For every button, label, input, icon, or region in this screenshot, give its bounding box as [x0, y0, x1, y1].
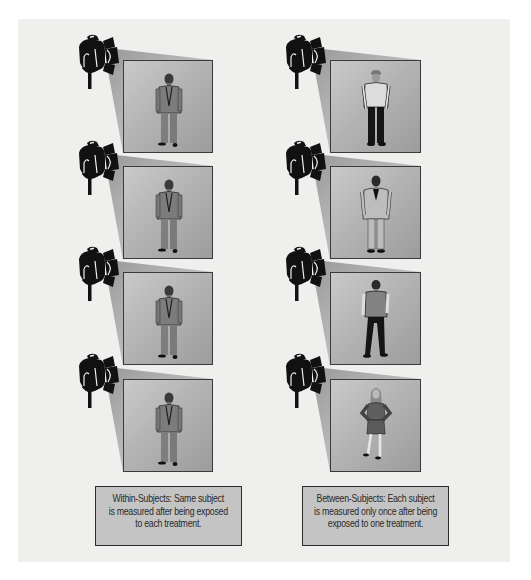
treatment-panel	[123, 272, 213, 365]
caption-line: Between-Subjects: Each subject	[314, 493, 437, 506]
spotlight-icon	[282, 352, 328, 408]
caption-line: to each treatment.	[109, 518, 228, 531]
caption-text: Within-Subjects: Same subject is measure…	[109, 493, 228, 531]
caption-line: Within-Subjects: Same subject	[109, 493, 228, 506]
spotlight-icon	[282, 245, 328, 301]
spotlight-icon	[282, 33, 328, 89]
man-in-suit-figure	[124, 61, 213, 153]
treatment-panel	[330, 379, 421, 472]
spotlight-icon	[75, 352, 121, 408]
man-in-cap-figure	[331, 61, 421, 153]
treatment-panel	[123, 60, 213, 153]
man-in-blazer-figure	[331, 167, 421, 259]
between-subjects-caption: Between-Subjects: Each subject is measur…	[302, 486, 449, 546]
treatment-panel	[330, 60, 421, 153]
spotlight-icon	[75, 139, 121, 195]
caption-line: exposed to one treatment.	[314, 518, 437, 531]
caption-text: Between-Subjects: Each subject is measur…	[314, 493, 437, 531]
man-in-suit-figure	[124, 167, 213, 259]
caption-line: is measured only once after being	[314, 506, 437, 519]
caption-line: is measured after being exposed	[109, 506, 228, 519]
man-in-vest-figure	[331, 273, 421, 365]
woman-figure	[331, 380, 421, 472]
spotlight-icon	[75, 33, 121, 89]
treatment-panel	[123, 379, 213, 472]
treatment-panel	[330, 272, 421, 365]
within-subjects-caption: Within-Subjects: Same subject is measure…	[95, 486, 242, 546]
spotlight-icon	[282, 139, 328, 195]
man-in-suit-figure	[124, 273, 213, 365]
treatment-panel	[123, 166, 213, 259]
spotlight-icon	[75, 245, 121, 301]
man-in-suit-figure	[124, 380, 213, 472]
treatment-panel	[330, 166, 421, 259]
